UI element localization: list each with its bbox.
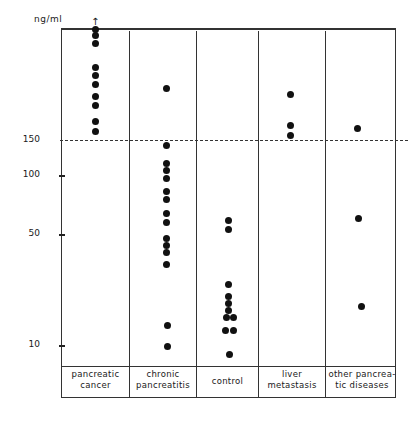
frame-right-line [395, 28, 396, 398]
data-point-pancreatic-cancer [92, 81, 99, 88]
category-label-pancreatic-cancer: pancreatic cancer [62, 369, 129, 391]
data-point-pancreatic-cancer [92, 40, 99, 47]
data-point-chronic-pancreatitis [163, 261, 170, 268]
data-point-pancreatic-cancer [92, 32, 99, 39]
label-line: chronic [130, 369, 196, 380]
data-point-pancreatic-cancer [92, 102, 99, 109]
label-line: metastasis [259, 380, 325, 391]
data-point-control [230, 327, 237, 334]
data-point-control [225, 217, 232, 224]
category-label-control: control [197, 376, 258, 387]
label-line: liver [259, 369, 325, 380]
data-point-pancreatic-cancer [92, 72, 99, 79]
label-line: control [197, 376, 258, 387]
data-point-control [222, 327, 229, 334]
data-point-other-pancreatic-diseases [354, 125, 361, 132]
data-point-other-pancreatic-diseases [358, 303, 365, 310]
column-divider [196, 31, 197, 398]
data-point-control [225, 281, 232, 288]
data-point-control [223, 314, 230, 321]
y-tick-label-50: 50 [10, 228, 40, 238]
label-line: cancer [62, 380, 129, 391]
y-tick-label-10: 10 [10, 339, 40, 349]
data-point-chronic-pancreatitis [164, 343, 171, 350]
data-point-chronic-pancreatitis [163, 196, 170, 203]
data-point-pancreatic-cancer [92, 128, 99, 135]
data-point-chronic-pancreatitis [163, 85, 170, 92]
data-point-chronic-pancreatitis [163, 210, 170, 217]
label-line: pancreatitis [130, 380, 196, 391]
y-tick-100 [59, 175, 65, 177]
data-point-control [225, 300, 232, 307]
column-divider [258, 31, 259, 398]
label-line: other pancrea- [326, 369, 398, 380]
frame-top-line [62, 28, 396, 30]
data-point-chronic-pancreatitis [164, 322, 171, 329]
data-point-control [226, 351, 233, 358]
y-tick-label-150: 150 [10, 134, 40, 144]
y-tick-50 [59, 234, 65, 236]
data-point-control [225, 307, 232, 314]
label-row-bottom-line [62, 397, 396, 398]
cutoff-line-150 [60, 140, 408, 141]
y-tick-10 [59, 345, 65, 347]
label-row-top-line [62, 366, 396, 367]
data-point-chronic-pancreatitis [163, 219, 170, 226]
y-tick-label-100: 100 [10, 169, 40, 179]
data-point-liver-metastasis [287, 91, 294, 98]
data-point-chronic-pancreatitis [163, 249, 170, 256]
data-point-chronic-pancreatitis [163, 235, 170, 242]
data-point-control [230, 314, 237, 321]
label-line: tic diseases [326, 380, 398, 391]
label-line: pancreatic [62, 369, 129, 380]
data-point-chronic-pancreatitis [163, 175, 170, 182]
data-point-chronic-pancreatitis [163, 167, 170, 174]
data-point-other-pancreatic-diseases [355, 215, 362, 222]
data-point-control [225, 226, 232, 233]
data-point-liver-metastasis [287, 132, 294, 139]
category-label-chronic-pancreatitis: chronic pancreatitis [130, 369, 196, 391]
data-point-chronic-pancreatitis [163, 242, 170, 249]
category-label-liver-metastasis: liver metastasis [259, 369, 325, 391]
y-axis-line [61, 28, 62, 398]
data-point-control [225, 293, 232, 300]
column-divider [325, 31, 326, 398]
category-label-other-pancreatic-diseases: other pancrea- tic diseases [326, 369, 398, 391]
data-point-pancreatic-cancer [92, 64, 99, 71]
data-point-chronic-pancreatitis [163, 160, 170, 167]
data-point-pancreatic-cancer [92, 118, 99, 125]
data-point-liver-metastasis [287, 122, 294, 129]
y-axis-unit: ng/ml [34, 14, 62, 24]
column-divider [129, 31, 130, 398]
data-point-pancreatic-cancer [92, 93, 99, 100]
data-point-chronic-pancreatitis [163, 142, 170, 149]
data-point-chronic-pancreatitis [163, 188, 170, 195]
